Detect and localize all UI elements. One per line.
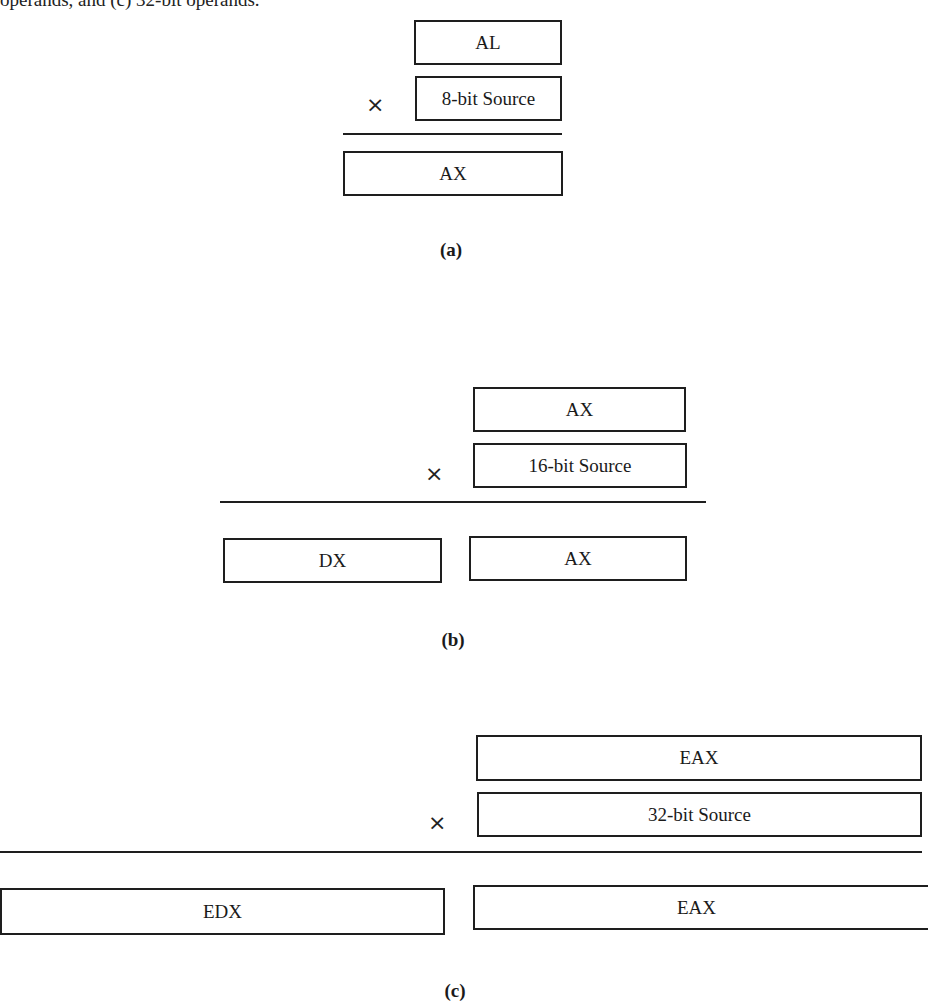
result-ax-box: AX (469, 536, 687, 581)
operand-ax-label: AX (566, 399, 593, 421)
caption-fragment: operands, and (c) 32-bit operands. (0, 0, 260, 11)
multiply-icon: × (366, 94, 384, 116)
result-dx-box: DX (223, 538, 442, 583)
source-8bit-label: 8-bit Source (442, 88, 535, 110)
sum-rule (343, 133, 562, 135)
multiply-icon: × (425, 463, 443, 485)
figure-c-label: (c) (444, 980, 465, 1002)
operand-al-box: AL (414, 20, 562, 65)
result-edx-label: EDX (203, 901, 242, 923)
operand-al-label: AL (475, 32, 500, 54)
result-ax-label: AX (564, 548, 591, 570)
source-8bit-box: 8-bit Source (415, 76, 562, 121)
result-dx-label: DX (319, 550, 346, 572)
result-eax-box: EAX (473, 885, 928, 930)
sum-rule (220, 501, 706, 503)
operand-eax-label: EAX (679, 747, 718, 769)
result-ax-box: AX (343, 151, 563, 196)
source-32bit-box: 32-bit Source (477, 792, 922, 837)
multiply-icon: × (428, 812, 446, 834)
operand-eax-box: EAX (476, 735, 922, 781)
sum-rule (0, 851, 922, 853)
figure-a-label: (a) (440, 239, 462, 261)
result-edx-box: EDX (0, 888, 445, 935)
figure-b-label: (b) (441, 629, 464, 651)
source-32bit-label: 32-bit Source (648, 804, 751, 826)
result-ax-label: AX (439, 163, 466, 185)
operand-ax-box: AX (473, 387, 686, 432)
result-eax-label: EAX (677, 897, 716, 919)
source-16bit-box: 16-bit Source (473, 443, 687, 488)
source-16bit-label: 16-bit Source (529, 455, 632, 477)
